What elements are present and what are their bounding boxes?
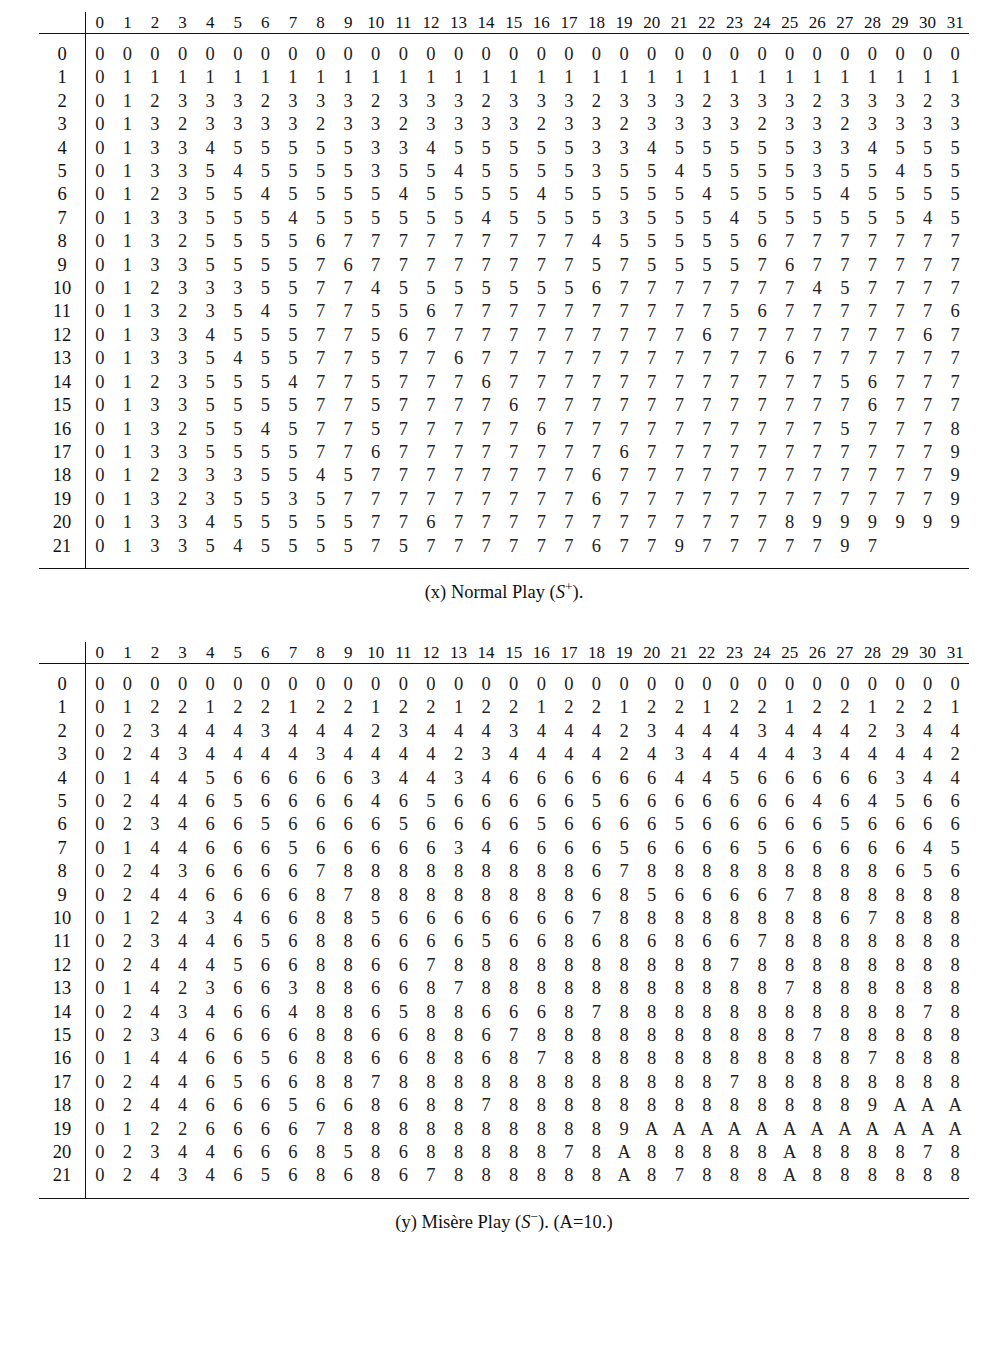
cell: 6 [252,837,280,860]
cell: 7 [859,230,887,253]
cell: 6 [803,837,831,860]
cell: 7 [803,441,831,464]
cell: 4 [196,720,224,743]
cell: 6 [279,813,307,836]
cell: 6 [224,1118,252,1141]
cell: 3 [279,90,307,113]
cell: 2 [555,696,583,719]
cell: 8 [859,1001,887,1024]
rule-spacer-cell [803,663,831,673]
cell: 6 [583,488,611,511]
table-row: 1301335455775776777777777776777777 [39,347,969,370]
cell: 7 [721,371,749,394]
cell: 7 [748,347,776,370]
rule-spacer-cell [390,1188,418,1199]
cell: 5 [859,183,887,206]
cell: 7 [528,254,556,277]
cell: 7 [859,464,887,487]
cell: 7 [748,488,776,511]
cell: 8 [390,1071,418,1094]
rule-spacer-cell [141,663,169,673]
cell: 8 [445,954,473,977]
cell: 3 [252,720,280,743]
cell: 7 [528,371,556,394]
cell: 6 [417,511,445,534]
cell: 5 [776,183,804,206]
cell: 6 [583,535,611,558]
table-row: 1402434664886588666878888888888878 [39,1001,969,1024]
cell: 4 [583,743,611,766]
cell: 6 [583,860,611,883]
cell: 1 [141,66,169,89]
cell: 7 [914,418,942,441]
cell: 0 [941,43,969,66]
cell: 1 [114,394,142,417]
cell: 5 [748,137,776,160]
cell: 6 [252,977,280,1000]
cell: 9 [941,511,969,534]
cell: 3 [169,743,197,766]
cell: 2 [141,464,169,487]
cell: 3 [500,113,528,136]
cell: 8 [583,1094,611,1117]
cell: 2 [252,90,280,113]
cell: 4 [555,720,583,743]
cell: 6 [362,1001,390,1024]
cell: 6 [362,813,390,836]
cell: 5 [555,207,583,230]
cell: 7 [831,300,859,323]
cell: 3 [859,90,887,113]
cell: 3 [390,720,418,743]
cell: 7 [803,1024,831,1047]
cell: 7 [610,860,638,883]
cell: 7 [859,300,887,323]
rule-spacer-cell [748,663,776,673]
cell: 8 [859,884,887,907]
cell: 3 [224,277,252,300]
cell: 6 [500,790,528,813]
cell: 5 [555,183,583,206]
cell: 7 [445,441,473,464]
cell: 8 [445,1094,473,1117]
cell: 0 [86,743,114,766]
cell: 5 [390,1001,418,1024]
cell: 7 [500,1024,528,1047]
cell: 7 [914,394,942,417]
cell: 6 [500,837,528,860]
column-header-26: 26 [803,642,831,664]
cell: 5 [445,277,473,300]
cell: 4 [914,207,942,230]
cell: 8 [500,954,528,977]
cell: 3 [803,160,831,183]
cell: 1 [886,66,914,89]
cell: 6 [472,1047,500,1070]
document-page: 0123456789101112131415161718192021222324… [0,0,1008,1358]
cell: 3 [417,90,445,113]
cell: 0 [86,371,114,394]
cell: 4 [776,720,804,743]
cell: 4 [417,743,445,766]
table-header-misere-play: 0123456789101112131415161718192021222324… [39,642,969,664]
cell: 7 [721,464,749,487]
cell: 8 [583,977,611,1000]
cell: 6 [390,954,418,977]
cell: 5 [224,418,252,441]
rule-spacer-cell [224,663,252,673]
column-header-10: 10 [362,642,390,664]
cell: 2 [114,860,142,883]
cell: 0 [334,673,362,696]
cell: 7 [693,511,721,534]
cell: 4 [141,1164,169,1187]
cell: 8 [445,1118,473,1141]
cell: 8 [914,1024,942,1047]
cell: 5 [831,813,859,836]
cell: 0 [528,673,556,696]
cell: 6 [252,884,280,907]
cell: 6 [693,813,721,836]
cell: 1 [114,207,142,230]
cell: 8 [307,1141,335,1164]
cell: 2 [307,113,335,136]
cell: 5 [196,371,224,394]
cell: A [776,1141,804,1164]
cell: 4 [307,720,335,743]
